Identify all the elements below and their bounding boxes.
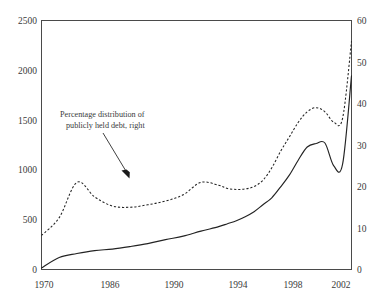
left-axis-tick-1000: 1000 [18, 165, 37, 175]
x-axis-tick-2002: 2002 [332, 280, 351, 290]
x-axis-tick-1998: 1998 [284, 280, 303, 290]
annotation-leader-line [103, 133, 127, 172]
left-axis-tick-0: 0 [32, 265, 37, 275]
x-axis-tick-1986: 1986 [101, 280, 120, 290]
chart-figure: 2500 2000 1500 1000 500 0 60 50 40 30 20… [0, 0, 388, 300]
x-axis-tick-1990: 1990 [165, 280, 184, 290]
series-line-foreign-holdings [42, 76, 352, 268]
chart-canvas: 2500 2000 1500 1000 500 0 60 50 40 30 20… [0, 0, 388, 300]
left-axis-tick-2000: 2000 [18, 66, 37, 76]
right-axis-tick-10: 10 [357, 224, 367, 234]
left-axis-tick-2500: 2500 [18, 16, 37, 26]
annotation-line-1: Percentage distribution of [60, 110, 145, 119]
left-axis-tick-500: 500 [23, 215, 38, 225]
right-axis-tick-30: 30 [357, 141, 367, 151]
right-axis-tick-60: 60 [357, 16, 367, 26]
left-axis-tick-1500: 1500 [18, 116, 37, 126]
right-axis-tick-20: 20 [357, 182, 367, 192]
series-line-percentage-distribution [42, 41, 352, 235]
right-axis-tick-0: 0 [357, 265, 362, 275]
x-axis-tick-1970: 1970 [35, 280, 54, 290]
right-axis-tick-50: 50 [357, 58, 367, 68]
annotation-arrow-icon [122, 170, 130, 179]
x-axis-tick-1994: 1994 [229, 280, 248, 290]
right-axis-tick-40: 40 [357, 99, 367, 109]
annotation-line-2: publicly held debt, right [66, 121, 145, 130]
